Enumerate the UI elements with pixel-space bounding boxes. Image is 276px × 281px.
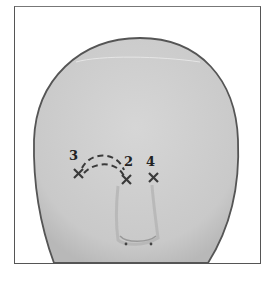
face-outline xyxy=(34,38,238,263)
point-4-label: 4 xyxy=(146,154,155,169)
point-2-label: 2 xyxy=(124,154,133,169)
face-diagram: 3 2 4 xyxy=(0,0,276,281)
point-3-label: 3 xyxy=(69,148,78,163)
nostril-left xyxy=(125,243,128,246)
nostril-right xyxy=(150,243,153,246)
